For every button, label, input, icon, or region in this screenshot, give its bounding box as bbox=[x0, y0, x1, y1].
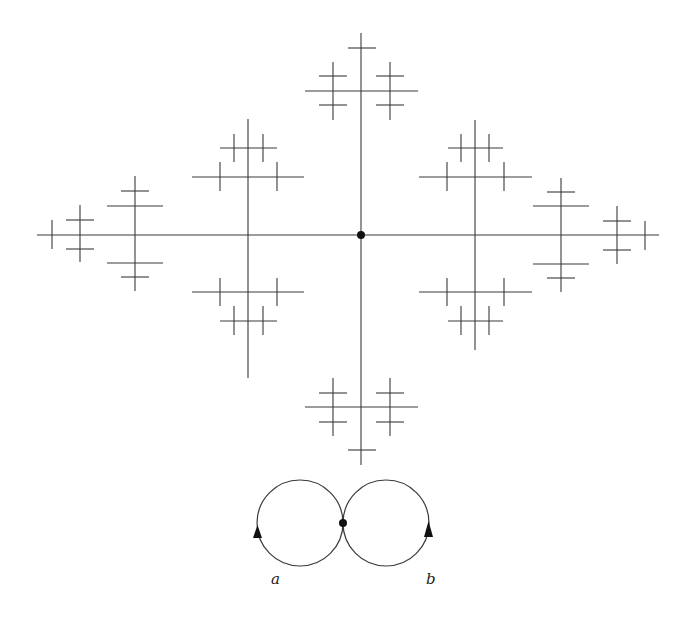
label-b: b bbox=[426, 570, 436, 588]
identity-vertex bbox=[357, 231, 365, 239]
arrow-a-icon bbox=[253, 525, 262, 538]
arrow-b-icon bbox=[424, 521, 433, 537]
loop-a bbox=[257, 480, 343, 566]
basepoint-vertex bbox=[339, 519, 347, 527]
cayley-tree bbox=[37, 33, 659, 465]
loop-b bbox=[343, 480, 429, 566]
free-group-diagram: a b bbox=[0, 0, 694, 620]
label-a: a bbox=[271, 570, 280, 588]
